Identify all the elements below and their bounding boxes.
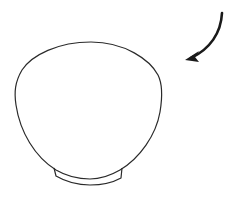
- diagram-canvas: [0, 0, 228, 199]
- foot-ring: [54, 168, 122, 185]
- curved-arrow-shaft: [191, 13, 222, 58]
- bowl-body: [15, 42, 162, 179]
- curved-arrow-head: [185, 51, 199, 62]
